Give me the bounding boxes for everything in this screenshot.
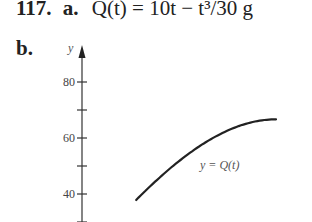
y-tick-label: 80 xyxy=(63,75,75,89)
curve-label: y = Q(t) xyxy=(199,158,239,172)
y-tick-label: 40 xyxy=(63,187,75,201)
y-axis-label: y xyxy=(67,41,74,55)
chart: y806040y = Q(t) xyxy=(0,0,312,222)
y-tick-label: 60 xyxy=(63,131,75,145)
y-axis-arrow-icon xyxy=(79,45,86,58)
